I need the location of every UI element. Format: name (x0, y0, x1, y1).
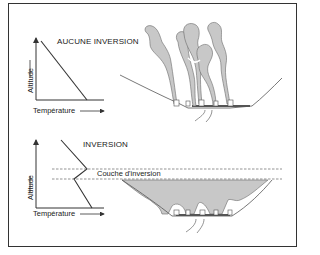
panel-title-inversion: INVERSION (83, 140, 128, 149)
x-axis-label-top: Température (33, 106, 75, 115)
graph-no-inversion (30, 38, 104, 111)
panel-title-no-inversion: AUCUNE INVERSION (57, 37, 139, 46)
x-axis-label-bottom: Température (33, 209, 75, 218)
temperature-profile-line (41, 41, 87, 100)
inversion-profile-line (61, 140, 92, 208)
valley-inversion (122, 180, 272, 233)
y-axis-label-top: Altitude (26, 68, 35, 93)
y-axis-label-bottom: Altitude (26, 175, 35, 200)
inversion-layer-label: Couche d'inversion (97, 169, 161, 178)
valley-no-inversion (120, 22, 282, 122)
